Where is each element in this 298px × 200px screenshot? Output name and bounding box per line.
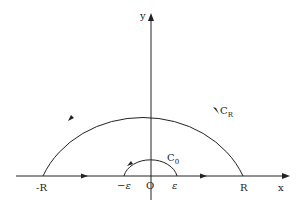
x-axis-arrow-icon bbox=[282, 173, 290, 179]
large-arc-CR bbox=[43, 118, 243, 176]
direction-arrow-icon bbox=[81, 174, 88, 179]
epsilon-label: ε bbox=[172, 181, 177, 191]
origin-label: O bbox=[146, 181, 154, 191]
R-label: R bbox=[240, 183, 248, 193]
neg-epsilon-label: −ε bbox=[117, 181, 131, 191]
x-axis-label: x bbox=[278, 183, 284, 193]
neg-R-label: -R bbox=[36, 183, 47, 193]
direction-arrow-icon bbox=[68, 115, 74, 121]
y-axis-label: y bbox=[140, 11, 146, 21]
contour-diagram bbox=[0, 0, 298, 200]
direction-arrow-icon bbox=[200, 174, 207, 179]
y-axis-arrow-icon bbox=[148, 13, 154, 21]
C0-label: C0 bbox=[167, 153, 179, 166]
CR-label: CR bbox=[220, 106, 233, 119]
direction-arrow-icon bbox=[213, 107, 219, 114]
